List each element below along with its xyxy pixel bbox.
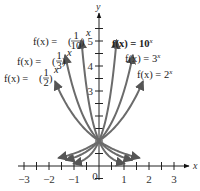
label-third-exp: x	[66, 47, 72, 58]
paren-close: )	[62, 56, 66, 68]
label-third-prefix: f(x) =	[17, 56, 41, 68]
label-half-exp: x	[53, 64, 59, 75]
x-axis-label: x	[192, 160, 198, 171]
y-axis-label: y	[95, 1, 101, 12]
label-3-pow-x: f(x) = 3x	[125, 52, 161, 65]
x-tick-label: 1	[121, 173, 127, 185]
x-tick-label: −1	[68, 173, 80, 185]
label-tenth-exp: x	[85, 27, 91, 38]
label-tenth-den: 10	[71, 40, 82, 51]
label-half-den: 2	[43, 77, 48, 88]
exponential-functions-chart: −3−2−10123 345 x y f(x) = 10x f(x) = 3x …	[0, 0, 200, 191]
paren-close: )	[81, 36, 85, 48]
label-10-pow-x: f(x) = 10x	[112, 37, 153, 50]
label-half-prefix: f(x) =	[4, 73, 28, 85]
y-tick-label: 4	[88, 60, 94, 72]
x-tick-label: −3	[18, 173, 30, 185]
label-half-pow-x: f(x) = ( 1 2 ) x	[4, 64, 59, 88]
label-tenth-prefix: f(x) =	[33, 36, 57, 48]
label-2-pow-x: f(x) = 2x	[137, 68, 173, 81]
function-labels: f(x) = 10x f(x) = 3x f(x) = 2x f(x) = ( …	[4, 27, 173, 88]
x-tick-label: 3	[171, 173, 177, 185]
paren-close: )	[49, 73, 53, 85]
x-tick-label: 2	[146, 173, 152, 185]
x-ticks: −3−2−10123	[18, 162, 177, 185]
axes: −3−2−10123 345 x y	[18, 1, 198, 185]
x-tick-label: 0	[92, 170, 98, 182]
x-tick-label: −2	[43, 173, 55, 185]
